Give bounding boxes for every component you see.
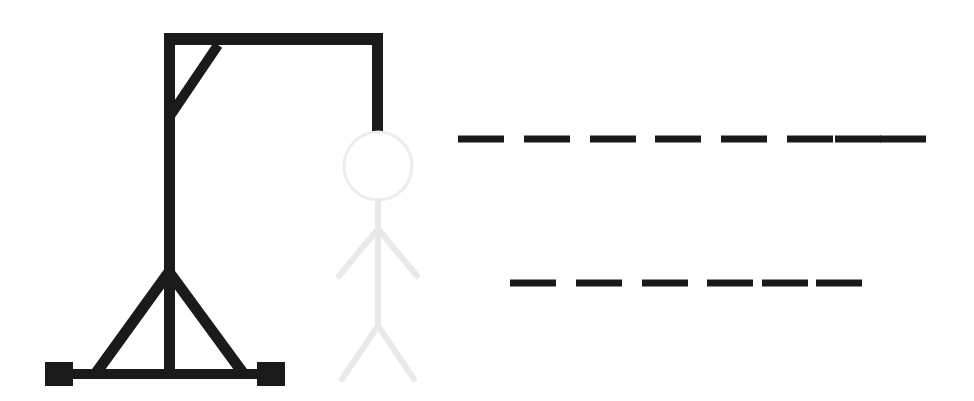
gallows-left-foot-block xyxy=(45,362,73,386)
canvas-background xyxy=(0,0,974,401)
gallows-vertical-post xyxy=(164,33,175,378)
gallows-rope xyxy=(372,33,383,133)
hangman-drawing-canvas xyxy=(0,0,974,401)
gallows-top-beam xyxy=(164,33,383,45)
gallows-right-foot-block xyxy=(257,362,285,386)
hangman-stage: 8 6 0 Hangman xyxy=(0,0,974,401)
